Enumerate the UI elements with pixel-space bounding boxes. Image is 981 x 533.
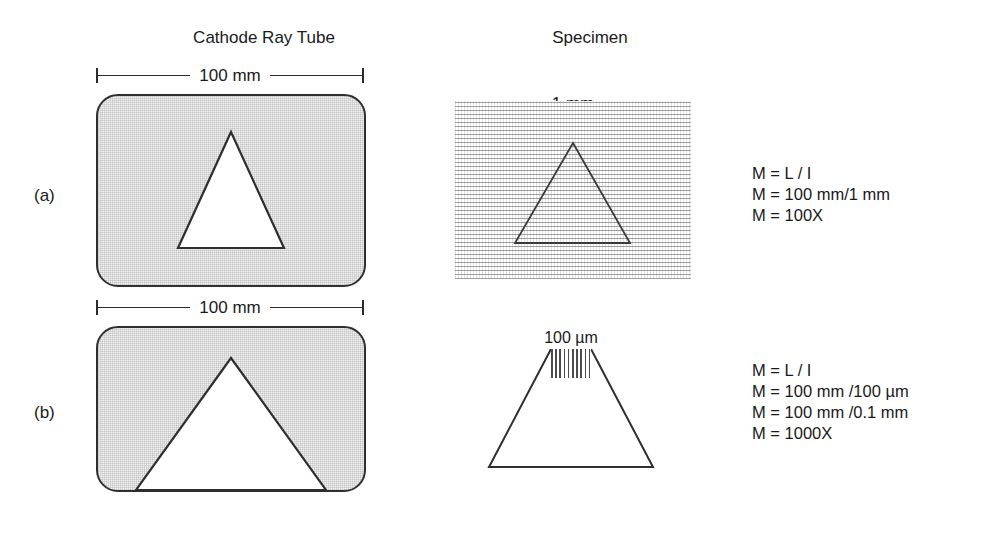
dimension-line-left	[98, 307, 191, 308]
dimension-bar-specimen-b: 100 µm	[535, 327, 607, 349]
specimen-field-a	[455, 101, 691, 279]
formula-block-a: M = L / I M = 100 mm/1 mm M = 100X	[752, 163, 890, 226]
formula-line: M = 100 mm/1 mm	[752, 184, 890, 205]
dimension-bar-crt-a: 100 mm	[96, 64, 364, 86]
dimension-tick-right	[362, 300, 364, 315]
dimension-line-right	[270, 75, 363, 76]
dimension-label-specimen-b: 100 µm	[540, 330, 602, 346]
crt-triangle-a	[98, 96, 364, 285]
column-heading-cathode-ray-tube: Cathode Ray Tube	[154, 28, 374, 48]
dimension-line-left	[98, 75, 191, 76]
dimension-label-crt-b: 100 mm	[190, 299, 269, 316]
crt-screen-a	[96, 94, 366, 287]
figure-canvas: Cathode Ray Tube Specimen (a) 100 mm 1 m…	[0, 0, 981, 533]
formula-line: M = 100 mm /0.1 mm	[752, 402, 909, 423]
dimension-tick-right	[362, 68, 364, 83]
column-heading-specimen: Specimen	[490, 28, 690, 48]
panel-label-a: (a)	[34, 186, 55, 206]
specimen-triangle-a	[455, 101, 691, 279]
panel-label-b: (b)	[34, 403, 55, 423]
formula-line: M = 100X	[752, 205, 890, 226]
dimension-bar-crt-b: 100 mm	[96, 296, 364, 318]
formula-line: M = 100 mm /100 µm	[752, 381, 909, 402]
crt-screen-b	[96, 326, 366, 492]
dimension-label-crt-a: 100 mm	[190, 67, 269, 84]
dimension-line-right	[270, 307, 363, 308]
specimen-hatch-region-b	[551, 349, 591, 378]
formula-line: M = 1000X	[752, 423, 909, 444]
formula-line: M = L / I	[752, 163, 890, 184]
formula-block-b: M = L / I M = 100 mm /100 µm M = 100 mm …	[752, 360, 909, 444]
crt-triangle-b	[98, 328, 364, 490]
formula-line: M = L / I	[752, 360, 909, 381]
